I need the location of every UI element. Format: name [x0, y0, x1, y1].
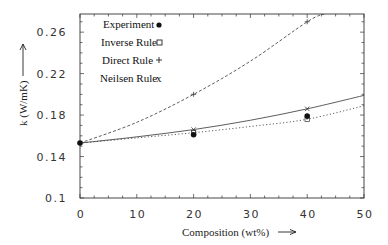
- x-tick-label: 10: [129, 208, 146, 221]
- y-axis-ticks: 0.10.140.180.220.26: [37, 22, 365, 205]
- legend-label-neilsen-rule: Neilsen Rule: [100, 72, 157, 84]
- x-axis-title-group: Composition (wt%): [182, 226, 296, 239]
- legend-experiment-marker-icon: [156, 22, 161, 27]
- legend: Experiment Inverse Rule Direct Rule Neil…: [100, 18, 162, 84]
- x-tick-label: 0: [77, 208, 86, 221]
- legend-direct-plus-icon: [156, 57, 162, 63]
- y-tick-label: 0.26: [37, 26, 68, 39]
- y-tick-label: 0.14: [37, 151, 68, 164]
- legend-label-experiment: Experiment: [103, 18, 154, 30]
- x-tick-label: 40: [300, 208, 317, 221]
- x-tick-label: 20: [186, 208, 203, 221]
- legend-label-direct-rule: Direct Rule: [102, 54, 153, 66]
- experiment-marker-icon: [191, 132, 197, 138]
- y-axis-title: k (W/mK): [17, 80, 30, 126]
- y-tick-label: 0.1: [45, 192, 67, 205]
- neilsen-rule-line: [80, 95, 364, 143]
- experiment-marker-icon: [77, 140, 83, 146]
- y-tick-label: 0.22: [37, 68, 68, 81]
- inverse-rule-line: [80, 106, 364, 143]
- direct-rule-marker-icon: [191, 92, 196, 97]
- chart: 01020304050 0.10.140.180.220.26 Experime…: [0, 0, 388, 245]
- x-axis-title: Composition (wt%): [182, 226, 269, 239]
- legend-neilsen-x-icon: x: [156, 72, 162, 84]
- experiment-marker-icon: [304, 113, 310, 119]
- x-axis-arrow-icon: [278, 230, 296, 235]
- x-tick-label: 30: [243, 208, 260, 221]
- direct-rule-marker-icon: [305, 19, 310, 24]
- y-tick-label: 0.18: [37, 109, 68, 122]
- y-axis-arrow-icon: [20, 44, 26, 76]
- legend-label-inverse-rule: Inverse Rule: [101, 36, 157, 48]
- x-tick-label: 50: [357, 208, 374, 221]
- legend-inverse-square-icon: [157, 40, 162, 45]
- y-axis-title-group: k (W/mK): [17, 44, 30, 126]
